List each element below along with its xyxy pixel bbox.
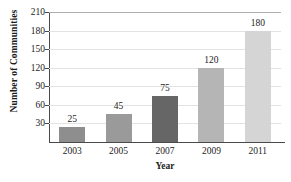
x-axis-tick-label: 2003 bbox=[50, 146, 94, 156]
x-axis-tick-label: 2011 bbox=[236, 146, 280, 156]
x-axis-title: Year bbox=[49, 161, 281, 171]
bar-value-label: 180 bbox=[238, 19, 278, 29]
bar-value-label: 25 bbox=[52, 115, 92, 125]
y-axis-tick-label: 210 bbox=[11, 8, 45, 18]
plot-area: 254575120180 bbox=[49, 12, 281, 142]
x-axis-tick-label: 2007 bbox=[143, 146, 187, 156]
bar-value-label: 120 bbox=[191, 56, 231, 66]
bar bbox=[152, 96, 178, 142]
x-axis-tick-label: 2005 bbox=[97, 146, 141, 156]
y-axis-tick-label: 60 bbox=[11, 101, 45, 111]
bar-value-label: 45 bbox=[99, 102, 139, 112]
y-axis-tick-label: 180 bbox=[11, 27, 45, 37]
y-axis-tick-label: 90 bbox=[11, 82, 45, 92]
bar-value-label: 75 bbox=[145, 84, 185, 94]
bar bbox=[198, 68, 224, 142]
x-axis-tick-label: 2009 bbox=[189, 146, 233, 156]
y-axis-tick-label: 150 bbox=[11, 45, 45, 55]
y-axis-tick-label: 30 bbox=[11, 119, 45, 129]
y-axis-tick bbox=[45, 49, 49, 50]
chart-title-cropped bbox=[60, 0, 250, 2]
y-axis-tick bbox=[45, 12, 49, 13]
y-axis-tick bbox=[45, 68, 49, 69]
bar bbox=[245, 31, 271, 142]
bar bbox=[106, 114, 132, 142]
bar bbox=[59, 127, 85, 142]
x-axis-line bbox=[49, 142, 285, 143]
gridline bbox=[49, 12, 281, 13]
y-axis-tick-label: 120 bbox=[11, 64, 45, 74]
y-axis-tick bbox=[45, 31, 49, 32]
y-axis-tick bbox=[45, 105, 49, 106]
y-axis-tick bbox=[45, 86, 49, 87]
y-axis-tick bbox=[45, 123, 49, 124]
bar-chart: Number of Communities 254575120180 30609… bbox=[0, 0, 291, 182]
